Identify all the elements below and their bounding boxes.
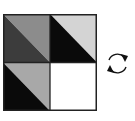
rotate-clockwise-icon [104,50,131,77]
cell-bottom-left [3,63,50,112]
quilt-grid [3,14,97,111]
cell-top-right [50,14,97,63]
cell-bottom-right [50,63,97,112]
cell-top-left [3,14,50,63]
